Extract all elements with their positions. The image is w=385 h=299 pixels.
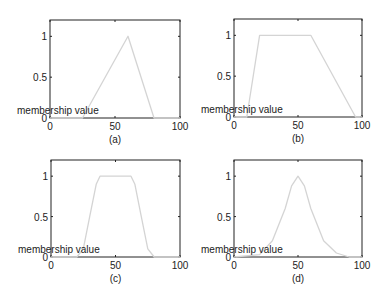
y-tick-label: 1: [225, 30, 231, 41]
panel-c: 05010000.51membership value(c): [18, 160, 189, 284]
y-tick-label: 1: [42, 171, 48, 182]
x-tick-label: 0: [231, 120, 237, 131]
figure: 05010000.51membership value(a) 05010000.…: [0, 0, 385, 299]
y-tick-label: 0.5: [34, 212, 48, 223]
axes-box: [234, 160, 362, 257]
panel-caption: (a): [109, 134, 121, 145]
y-tick-label: 0.5: [217, 212, 231, 223]
panel-d: 05010000.51membership value(d): [201, 160, 371, 284]
x-tick-label: 0: [47, 121, 53, 132]
y-axis-label: membership value: [18, 244, 100, 255]
x-tick-label: 50: [109, 121, 121, 132]
y-tick-label: 1: [41, 31, 47, 42]
y-tick-label: 0.5: [33, 72, 47, 83]
x-tick-label: 50: [292, 120, 304, 131]
x-tick-label: 100: [172, 260, 189, 271]
y-axis-label: membership value: [201, 244, 283, 255]
x-tick-label: 100: [354, 260, 371, 271]
panel-caption: (b): [292, 133, 304, 144]
y-tick-label: 0.5: [217, 71, 231, 82]
axes-box: [234, 19, 362, 117]
y-axis-label: membership value: [17, 105, 99, 116]
y-axis-label: membership value: [201, 104, 283, 115]
axes-box: [51, 160, 180, 257]
panel-b: 05010000.51membership value(b): [201, 19, 371, 144]
panel-caption: (d): [292, 273, 304, 284]
x-tick-label: 100: [354, 120, 371, 131]
x-tick-label: 100: [172, 121, 189, 132]
axes-box: [50, 20, 180, 118]
x-tick-label: 50: [292, 260, 304, 271]
x-tick-label: 50: [110, 260, 122, 271]
panel-caption: (c): [110, 273, 122, 284]
panel-a: 05010000.51membership value(a): [17, 20, 189, 145]
y-tick-label: 1: [225, 171, 231, 182]
x-tick-label: 0: [48, 260, 54, 271]
x-tick-label: 0: [231, 260, 237, 271]
